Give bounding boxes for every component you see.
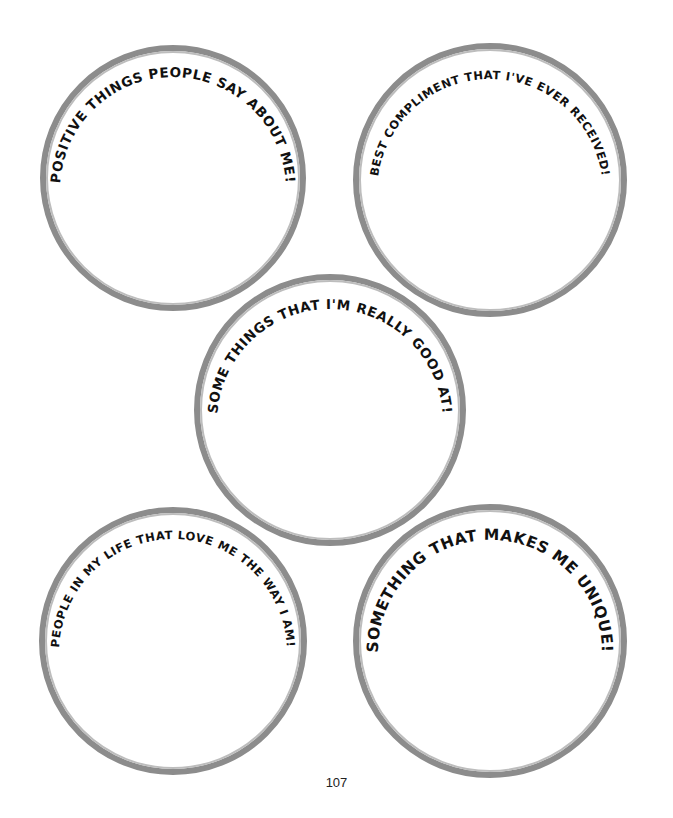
circle-best-compliment[interactable]: BEST COMPLIMENT THAT I'VE EVER RECEIVED! [356, 46, 624, 314]
worksheet-canvas: POSITIVE THINGS PEOPLE SAY ABOUT ME! BES… [0, 0, 673, 818]
writing-area[interactable] [46, 514, 300, 768]
writing-area[interactable] [201, 281, 459, 539]
writing-area[interactable] [47, 52, 299, 304]
circle-positive-things[interactable]: POSITIVE THINGS PEOPLE SAY ABOUT ME! [43, 48, 303, 308]
writing-area[interactable] [360, 50, 620, 310]
circle-people-who-love-me[interactable]: PEOPLE IN MY LIFE THAT LOVE ME THE WAY I… [42, 510, 304, 772]
circle-makes-me-unique[interactable]: SOMETHING THAT MAKES ME UNIQUE! [356, 507, 624, 775]
circle-really-good-at[interactable]: SOME THINGS THAT I'M REALLY GOOD AT! [197, 277, 463, 543]
page-number: 107 [0, 775, 673, 790]
writing-area[interactable] [360, 511, 620, 771]
